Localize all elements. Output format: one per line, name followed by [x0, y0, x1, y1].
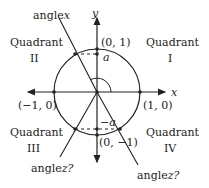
marker-neg-a: −a — [100, 116, 116, 129]
quadrant-iv-name: Quadrant — [146, 126, 200, 139]
quadrant-ii-numeral: II — [30, 52, 39, 65]
x-axis-label: x — [171, 86, 178, 99]
angle-x-label: anglex — [33, 9, 71, 22]
point-origin — [95, 90, 99, 94]
angle-x-ray — [59, 18, 97, 92]
point-right — [138, 90, 142, 94]
angle-z-right-label: anglez? — [137, 169, 180, 182]
quadrant-iii-numeral: III — [27, 142, 40, 155]
quadrant-iii-name: Quadrant — [10, 126, 64, 139]
quadrant-ii-name: Quadrant — [10, 36, 64, 49]
point-left — [52, 90, 56, 94]
unit-circle-diagram: anglex y x (0, 1) a (−1, 0) (1, 0) −a (0… — [0, 0, 209, 188]
quadrant-i-name: Quadrant — [146, 36, 200, 49]
point-neg-a — [95, 127, 99, 131]
y-axis-label: y — [91, 7, 99, 20]
point-z-left — [73, 127, 77, 131]
point-top-label: (0, 1) — [101, 36, 131, 49]
point-a — [95, 52, 99, 56]
point-x-intersection — [73, 52, 77, 56]
quadrant-iv-numeral: IV — [164, 142, 177, 155]
point-top — [95, 47, 99, 51]
point-right-label: (1, 0) — [143, 99, 173, 112]
quadrant-i-numeral: I — [168, 52, 172, 65]
point-bottom-label: (0, −1) — [99, 136, 138, 149]
point-left-label: (−1, 0) — [18, 99, 57, 112]
angle-z-left-label: anglez? — [31, 162, 74, 175]
point-z-right — [118, 127, 122, 131]
angle-z-left-ray — [60, 92, 97, 157]
marker-a: a — [103, 51, 110, 64]
